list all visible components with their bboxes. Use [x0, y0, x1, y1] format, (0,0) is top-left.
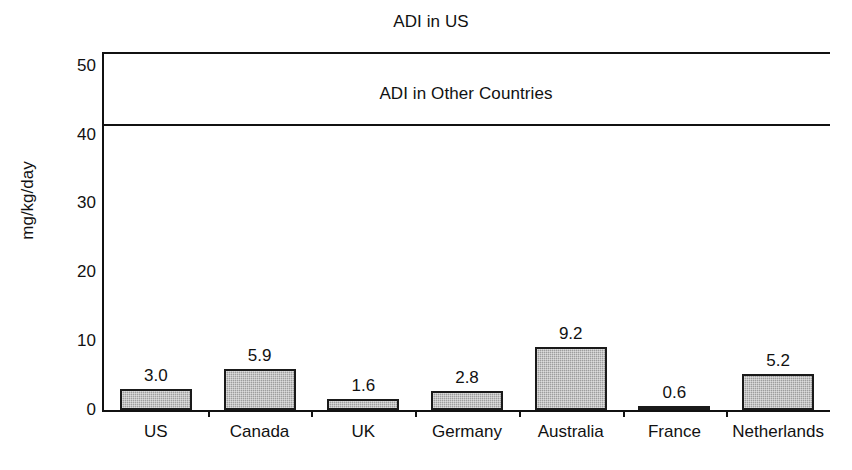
bar-group: 5.9 [208, 52, 312, 410]
bar-us[interactable] [120, 389, 192, 410]
x-axis-label-netherlands: Netherlands [726, 421, 830, 443]
y-axis-tick-labels: 01020304050 [44, 0, 96, 470]
x-axis-tick [623, 410, 625, 417]
y-axis-tick-30: 30 [50, 194, 96, 211]
x-axis-label-germany: Germany [415, 421, 519, 443]
x-axis-label-us: US [104, 421, 208, 443]
x-axis-label-canada: Canada [208, 421, 312, 443]
bar-group: 9.2 [519, 52, 623, 410]
bar-australia[interactable] [535, 347, 607, 410]
bar-group: 2.8 [415, 52, 519, 410]
y-axis-tick-10: 10 [50, 332, 96, 349]
bar-group: 5.2 [726, 52, 830, 410]
x-axis-tick [415, 410, 417, 417]
plot-area: 3.05.91.62.89.20.65.2 [104, 52, 830, 410]
x-axis-label-uk: UK [311, 421, 415, 443]
bar-canada[interactable] [224, 369, 296, 410]
bar-france[interactable] [638, 406, 710, 410]
x-axis-tick [208, 410, 210, 417]
y-axis-tick-40: 40 [50, 126, 96, 143]
bar-netherlands[interactable] [742, 374, 814, 410]
bar-group: 1.6 [311, 52, 415, 410]
y-axis-tick-50: 50 [50, 57, 96, 74]
bar-value-label-netherlands: 5.2 [702, 352, 852, 370]
y-axis-tick-0: 0 [50, 401, 96, 418]
x-axis-tick [726, 410, 728, 417]
x-axis-line [102, 410, 830, 412]
x-axis-category-labels: USCanadaUKGermanyAustraliaFranceNetherla… [104, 421, 830, 451]
bar-germany[interactable] [431, 391, 503, 410]
y-axis-tick-20: 20 [50, 263, 96, 280]
bar-chart: ADI in US ADI in Other Countries mg/kg/d… [0, 0, 852, 470]
x-axis-label-france: France [623, 421, 727, 443]
x-axis-tick [519, 410, 521, 417]
x-axis-label-australia: Australia [519, 421, 623, 443]
bar-uk[interactable] [327, 399, 399, 410]
annotation-adi-in-us: ADI in US [0, 12, 852, 32]
y-axis-title: mg/kg/day [19, 146, 36, 256]
x-axis-tick [311, 410, 313, 417]
